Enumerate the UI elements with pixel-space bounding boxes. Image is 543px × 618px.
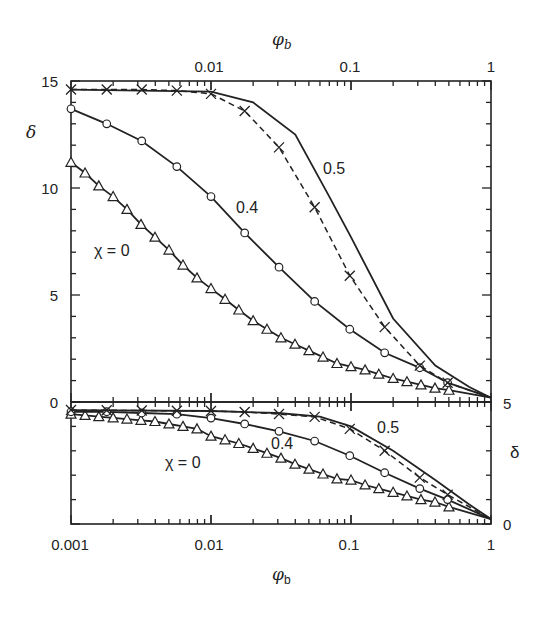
lower-yaxis-title: δ xyxy=(510,443,519,462)
data-series xyxy=(66,85,491,520)
upper-ytick-0: 0 xyxy=(50,394,58,411)
diamond-marker xyxy=(381,469,389,477)
bottom-xtick-1: 1 xyxy=(487,536,495,553)
lower-annotation-chi0: χ = 0 xyxy=(165,454,201,471)
upper-annotation-chi04: 0.4 xyxy=(236,199,258,216)
bottom-xtick-0.1: 0.1 xyxy=(339,536,360,553)
diamond-marker xyxy=(138,137,146,145)
series-line xyxy=(71,410,491,519)
top-xaxis-title: φb xyxy=(272,29,292,52)
diamond-marker xyxy=(207,193,215,201)
diamond-marker xyxy=(346,325,354,333)
cross-marker xyxy=(310,202,320,212)
cross-marker xyxy=(380,322,390,332)
top-xtick-0.01: 0.01 xyxy=(194,58,223,75)
diamond-marker xyxy=(207,414,215,422)
diamond-marker xyxy=(67,105,75,113)
cross-marker xyxy=(415,473,425,483)
bottom-xtick-0.01: 0.01 xyxy=(194,536,223,553)
upper-ytick-15: 15 xyxy=(41,73,58,90)
triangle-marker xyxy=(332,358,342,367)
cross-marker xyxy=(206,89,216,99)
series-line xyxy=(71,410,491,519)
lower-ytick-0: 0 xyxy=(503,516,511,533)
cross-marker xyxy=(240,106,250,116)
diamond-marker xyxy=(311,437,319,445)
lower-annotation-chi05: 0.5 xyxy=(377,419,399,436)
series-line xyxy=(71,162,491,397)
upper-annotation-chi05: 0.5 xyxy=(323,160,345,177)
upper-yaxis-title: δ xyxy=(26,122,36,142)
top-xtick-0.1: 0.1 xyxy=(340,58,361,75)
triangle-marker xyxy=(304,346,314,355)
triangle-marker xyxy=(66,157,76,166)
diamond-marker xyxy=(103,408,111,416)
upper-ytick-5: 5 xyxy=(50,287,58,304)
series-line xyxy=(71,90,491,398)
diamond-marker xyxy=(275,263,283,271)
bottom-xaxis-title: φb xyxy=(272,564,291,587)
diamond-marker xyxy=(381,349,389,357)
bottom-xtick-0.001: 0.001 xyxy=(51,536,89,553)
diamond-marker xyxy=(416,485,424,493)
series-line xyxy=(71,90,491,398)
diamond-marker xyxy=(241,229,249,237)
diamond-marker xyxy=(275,427,283,435)
lower-ytick-5: 5 xyxy=(503,395,511,412)
chart: 0.01 0.1 1 15 10 5 0 5 0 0.001 0.01 0.1 … xyxy=(0,0,543,618)
triangle-marker xyxy=(206,431,216,440)
cross-marker xyxy=(345,271,355,281)
triangle-marker xyxy=(262,324,272,333)
diamond-marker xyxy=(173,163,181,171)
diamond-marker xyxy=(346,452,354,460)
top-xtick-1: 1 xyxy=(487,58,495,75)
triangle-marker xyxy=(318,352,328,361)
upper-ytick-10: 10 xyxy=(41,180,58,197)
triangle-marker xyxy=(276,333,286,342)
diamond-marker xyxy=(311,298,319,306)
diamond-marker xyxy=(103,120,111,128)
diamond-marker xyxy=(67,408,75,416)
lower-annotation-chi04: 0.4 xyxy=(271,435,293,452)
cross-marker xyxy=(274,142,284,152)
upper-plot-frame xyxy=(71,81,491,402)
upper-annotation-chi0: χ = 0 xyxy=(94,242,130,259)
triangle-marker xyxy=(290,339,300,348)
triangle-marker xyxy=(290,459,300,468)
series-line xyxy=(71,109,491,398)
diamond-marker xyxy=(241,420,249,428)
